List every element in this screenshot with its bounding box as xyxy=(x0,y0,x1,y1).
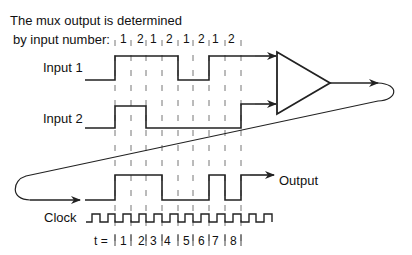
clock-waveform xyxy=(86,214,272,222)
feedback-wire xyxy=(15,83,394,200)
input-1-waveform xyxy=(85,56,255,80)
input-2-waveform xyxy=(85,104,255,128)
output-waveform xyxy=(85,175,250,200)
mux-triangle xyxy=(277,52,330,114)
mux-timing-diagram xyxy=(0,0,412,255)
